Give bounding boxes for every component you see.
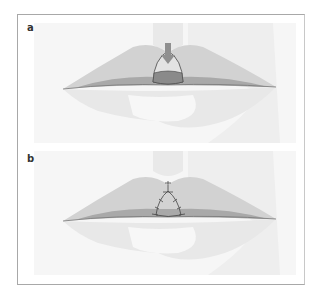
lips-wedge-diagram xyxy=(18,15,304,147)
wedge-excision xyxy=(153,71,183,84)
panel-b: b xyxy=(18,147,304,284)
lips-sutured-diagram xyxy=(18,147,304,284)
panel-label-a: a xyxy=(27,22,34,33)
panel-a: a xyxy=(18,15,304,147)
figure-frame: a xyxy=(17,14,305,285)
panel-label-b: b xyxy=(27,153,34,164)
